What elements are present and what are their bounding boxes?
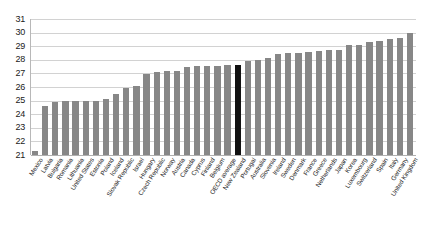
- bar-latvia: [42, 106, 48, 155]
- bar-norway: [164, 71, 170, 155]
- bar-lithuania: [72, 101, 78, 155]
- bar-denmark: [295, 53, 301, 155]
- y-tick-label: 23: [15, 123, 25, 132]
- bar-israel: [133, 86, 139, 155]
- bar-mexico: [32, 151, 38, 155]
- y-tick-label: 24: [15, 110, 25, 119]
- bar-united-states: [83, 101, 89, 155]
- y-tick-label: 22: [15, 137, 25, 146]
- bars-layer: [30, 19, 415, 155]
- bar-portugal: [245, 61, 251, 155]
- y-tick-label: 31: [15, 15, 25, 24]
- bar-greece: [316, 51, 322, 155]
- bar-estonia: [93, 101, 99, 155]
- bar-hungary: [143, 74, 149, 155]
- bar-bulgaria: [52, 102, 58, 155]
- bar-belgium: [214, 66, 220, 155]
- y-tick-label: 21: [15, 151, 25, 160]
- y-tick-label: 26: [15, 83, 25, 92]
- bar-canada: [184, 67, 190, 155]
- bar-korea: [346, 45, 352, 155]
- bar-finland: [204, 66, 210, 155]
- x-axis-labels: MexicoLatviaBulgariaRomaniaLithuaniaUnit…: [30, 157, 424, 252]
- bar-slovak-republic: [123, 88, 129, 155]
- bar-australia: [255, 60, 261, 155]
- bar-italy: [387, 39, 393, 155]
- bar-luxembourg: [356, 45, 362, 155]
- bar-iceland: [113, 94, 119, 155]
- bar-oecd-average: [224, 65, 230, 155]
- bar-united-kingdom: [407, 33, 413, 155]
- bar-austria: [174, 71, 180, 155]
- y-tick-label: 27: [15, 69, 25, 78]
- bar-romania: [62, 101, 68, 155]
- bar-switzerland: [366, 42, 372, 155]
- y-tick-label: 28: [15, 55, 25, 64]
- bar-netherlands: [326, 50, 332, 155]
- bar-czech-republic: [154, 72, 160, 155]
- y-tick-label: 25: [15, 96, 25, 105]
- y-tick-label: 30: [15, 28, 25, 37]
- y-axis-labels: 2122232425262728293031: [0, 0, 28, 252]
- bar-france: [305, 52, 311, 155]
- bar-japan: [336, 50, 342, 155]
- bar-germany: [397, 38, 403, 155]
- y-tick-label: 29: [15, 42, 25, 51]
- bar-chart: 2122232425262728293031 MexicoLatviaBulga…: [0, 0, 424, 252]
- bar-new-zealand: [235, 65, 241, 155]
- bar-ireland: [275, 54, 281, 155]
- bar-spain: [376, 41, 382, 155]
- bar-slovenia: [265, 58, 271, 155]
- bar-sweden: [285, 53, 291, 155]
- bar-cyprus: [194, 66, 200, 155]
- bar-poland: [103, 99, 109, 155]
